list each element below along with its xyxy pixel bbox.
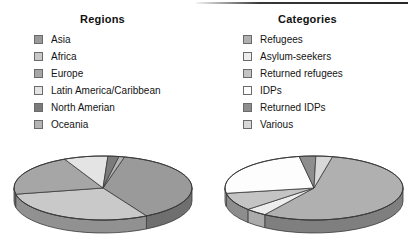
legend-regions: Asia Africa Europe Latin America/Caribbe… [34, 31, 161, 133]
legend-item[interactable]: IDPs [243, 82, 343, 99]
legend-item[interactable]: Various [243, 116, 343, 133]
legend-item[interactable]: Asylum-seekers [243, 48, 343, 65]
legend-item[interactable]: Asia [34, 31, 161, 48]
legend-categories: Refugees Asylum-seekers Returned refugee… [243, 31, 343, 133]
legend-item[interactable]: North Amerian [34, 99, 161, 116]
legend-swatch-refugees [243, 35, 252, 44]
chart-title-regions: Regions [0, 13, 205, 25]
legend-label: North Amerian [51, 102, 115, 113]
legend-label: IDPs [260, 85, 282, 96]
legend-label: Africa [51, 51, 77, 62]
legend-swatch-idps [243, 86, 252, 95]
legend-item[interactable]: Returned IDPs [243, 99, 343, 116]
legend-label: Asylum-seekers [260, 51, 331, 62]
legend-swatch-north-amerian [34, 103, 43, 112]
legend-label: Oceania [51, 119, 88, 130]
legend-label: Latin America/Caribbean [51, 85, 161, 96]
legend-label: Returned refugees [260, 68, 343, 79]
legend-label: Asia [51, 34, 70, 45]
legend-label: Europe [51, 68, 83, 79]
legend-label: Various [260, 119, 293, 130]
legend-swatch-various [243, 120, 252, 129]
legend-swatch-africa [34, 52, 43, 61]
legend-label: Returned IDPs [260, 102, 326, 113]
legend-item[interactable]: Africa [34, 48, 161, 65]
legend-swatch-asylum-seekers [243, 52, 252, 61]
pie-categories-svg [219, 148, 409, 236]
pie-regions-svg [8, 148, 198, 236]
legend-swatch-europe [34, 69, 43, 78]
pie-slice-idps[interactable] [225, 156, 314, 193]
pie-chart-regions [8, 148, 198, 236]
pie-chart-categories [219, 148, 409, 236]
legend-swatch-asia [34, 35, 43, 44]
pie-chart-figure: Regions Asia Africa Europe Latin America… [0, 0, 410, 241]
legend-item[interactable]: Europe [34, 65, 161, 82]
chart-title-categories: Categories [205, 13, 410, 25]
legend-item[interactable]: Oceania [34, 116, 161, 133]
chart-panel-regions: Regions Asia Africa Europe Latin America… [0, 0, 205, 241]
legend-item[interactable]: Returned refugees [243, 65, 343, 82]
chart-panel-categories: Categories Refugees Asylum-seekers Retur… [205, 0, 410, 241]
legend-item[interactable]: Latin America/Caribbean [34, 82, 161, 99]
legend-swatch-latin-america-caribbean [34, 86, 43, 95]
legend-label: Refugees [260, 34, 303, 45]
legend-swatch-oceania [34, 120, 43, 129]
legend-item[interactable]: Refugees [243, 31, 343, 48]
legend-swatch-returned-idps [243, 103, 252, 112]
legend-swatch-returned-refugees [243, 69, 252, 78]
